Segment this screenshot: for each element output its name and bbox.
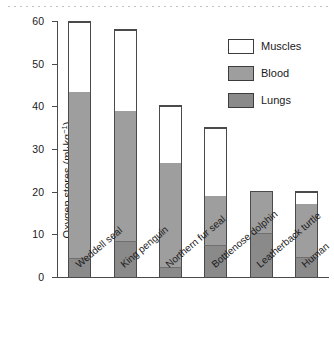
bar-weddell-seal[interactable] (68, 22, 91, 277)
y-axis-tick: 30 (52, 149, 57, 150)
y-axis-tick-label: 20 (32, 186, 44, 197)
legend-swatch-muscles (228, 39, 254, 54)
y-axis-tick: 20 (52, 192, 57, 193)
bar-segment-blood (68, 92, 91, 258)
y-axis-tick: 0 (52, 277, 57, 278)
y-axis-tick: 60 (52, 21, 57, 22)
legend-item-blood: Blood (228, 63, 301, 84)
page-top-dotted-rule (8, 6, 330, 7)
y-axis-line (57, 21, 58, 277)
legend-item-muscles: Muscles (228, 36, 301, 57)
bar-top-cap (114, 29, 137, 30)
legend-item-lungs: Lungs (228, 90, 301, 111)
bar-top-cap (295, 191, 318, 192)
bar-segment-muscles (114, 30, 137, 111)
y-axis-tick-label: 0 (38, 272, 44, 283)
y-axis-tick-label: 50 (32, 58, 44, 69)
y-axis-tick: 40 (52, 106, 57, 107)
y-axis-tick-label: 30 (32, 144, 44, 155)
legend-swatch-lungs (228, 93, 254, 108)
legend-label-lungs: Lungs (261, 95, 291, 106)
bar-segment-muscles (204, 128, 227, 196)
legend-label-muscles: Muscles (261, 41, 301, 52)
y-axis-tick-label: 40 (32, 101, 44, 112)
bar-segment-blood (114, 111, 137, 242)
y-axis-tick-label: 60 (32, 16, 44, 27)
y-axis-tick: 50 (52, 64, 57, 65)
y-axis-tick: 10 (52, 234, 57, 235)
bar-top-cap (159, 105, 182, 106)
legend-swatch-blood (228, 66, 254, 81)
bar-segment-muscles (295, 192, 318, 205)
bar-segment-muscles (159, 106, 182, 162)
bar-top-cap (68, 21, 91, 22)
y-axis-tick-label: 10 (32, 229, 44, 240)
legend: Muscles Blood Lungs (228, 36, 301, 117)
bar-segment-muscles (68, 22, 91, 92)
bar-king-penguin[interactable] (114, 30, 137, 277)
x-axis-line (57, 277, 329, 278)
bar-top-cap (204, 127, 227, 128)
figure-canvas: Oxygen stores (ml·kg−1) 0102030405060 We… (0, 0, 334, 360)
legend-label-blood: Blood (261, 68, 289, 79)
bar-top-cap (250, 191, 273, 192)
